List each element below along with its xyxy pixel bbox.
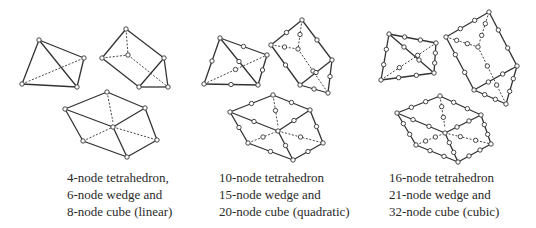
node-icon <box>458 134 462 138</box>
visible-edge <box>164 58 168 87</box>
node-icon <box>482 122 486 126</box>
node-icon <box>291 158 295 162</box>
node-icon <box>268 149 272 153</box>
group-cubic <box>379 10 519 164</box>
node-icon <box>229 82 233 86</box>
node-icon <box>155 138 159 142</box>
node-icon <box>237 125 241 129</box>
node-icon <box>75 85 79 89</box>
visible-edge <box>458 144 491 162</box>
group-quadratic <box>202 18 334 162</box>
node-icon <box>381 62 385 66</box>
node-icon <box>455 125 459 129</box>
hidden-edge <box>440 96 445 128</box>
node-icon <box>401 121 405 125</box>
node-icon <box>20 82 24 86</box>
node-icon <box>312 87 316 91</box>
visible-edge <box>474 90 506 104</box>
node-icon <box>330 58 334 62</box>
node-icon <box>505 46 509 50</box>
node-icon <box>105 90 109 94</box>
caption-line: 10-node tetrahedron <box>219 169 350 186</box>
shape-tetrahedron-16 <box>379 32 438 82</box>
node-icon <box>472 88 476 92</box>
node-icon <box>402 35 406 39</box>
node-icon <box>63 107 67 111</box>
node-icon <box>202 82 206 86</box>
caption-line: 4-node tetrahedron, <box>67 169 172 186</box>
node-icon <box>454 38 458 42</box>
hidden-edge <box>126 29 128 55</box>
visible-edge <box>65 109 113 127</box>
hidden-edge <box>416 133 445 145</box>
caption-line: 6-node wedge and <box>67 186 172 203</box>
visible-edge <box>381 73 434 80</box>
visible-edge <box>381 34 389 80</box>
node-icon <box>282 45 286 49</box>
hidden-edge <box>83 127 113 141</box>
node-icon <box>265 53 269 57</box>
node-icon <box>414 143 418 147</box>
node-icon <box>126 53 130 57</box>
node-icon <box>271 93 275 97</box>
node-icon <box>485 64 489 68</box>
node-icon <box>125 155 129 159</box>
visible-edge <box>113 108 145 127</box>
node-icon <box>482 92 486 96</box>
node-icon <box>423 99 427 103</box>
visible-edge <box>389 34 434 73</box>
node-icon <box>409 105 413 109</box>
node-icon <box>326 91 330 95</box>
node-icon <box>476 45 480 49</box>
node-icon <box>407 132 411 136</box>
caption-cubic: 16-node tetrahedron 21-node wedge and 32… <box>389 169 499 220</box>
node-icon <box>467 119 471 123</box>
node-icon <box>515 64 519 68</box>
node-icon <box>494 83 498 87</box>
caption-linear: 4-node tetrahedron, 6-node wedge and 8-n… <box>67 169 172 220</box>
node-icon <box>432 61 436 65</box>
node-icon <box>493 97 497 101</box>
node-icon <box>166 85 170 89</box>
node-icon <box>300 18 304 22</box>
node-icon <box>433 51 437 55</box>
hidden-edge <box>107 92 113 122</box>
visible-edge <box>489 12 517 66</box>
node-icon <box>289 100 293 104</box>
node-icon <box>489 142 493 146</box>
visible-edge <box>126 29 164 58</box>
node-icon <box>465 106 469 110</box>
node-icon <box>453 52 457 56</box>
caption-line: 20-node cube (quadratic) <box>219 203 350 220</box>
caption-line: 16-node tetrahedron <box>389 169 499 186</box>
node-icon <box>395 111 399 115</box>
shape-cube-32 <box>395 94 493 164</box>
node-icon <box>283 143 287 147</box>
shape-wedge-21 <box>444 10 519 106</box>
node-icon <box>237 59 241 63</box>
node-icon <box>241 44 245 48</box>
node-icon <box>100 56 104 60</box>
visible-edge <box>127 140 157 157</box>
node-icon <box>433 135 437 139</box>
node-icon <box>434 41 438 45</box>
node-icon <box>252 119 256 123</box>
node-icon <box>411 117 415 121</box>
hidden-edge <box>113 127 157 140</box>
visible-edge <box>481 115 491 144</box>
visible-edge <box>102 58 139 87</box>
visible-edge <box>139 58 164 87</box>
shape-cube-8 <box>63 90 159 159</box>
group-linear <box>20 27 170 159</box>
node-icon <box>261 135 265 139</box>
node-icon <box>415 53 419 57</box>
caption-line: 8-node cube (linear) <box>67 203 172 220</box>
node-icon <box>418 38 422 42</box>
node-icon <box>472 18 476 22</box>
node-icon <box>269 43 273 47</box>
visible-edge <box>77 58 84 87</box>
visible-edge <box>434 43 436 73</box>
node-icon <box>441 115 445 119</box>
node-icon <box>298 135 302 139</box>
visible-edge <box>107 92 145 108</box>
